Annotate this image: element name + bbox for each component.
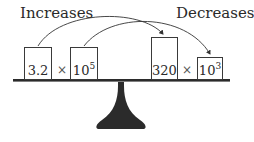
left-power-value: 105 (71, 63, 97, 77)
box-right-coefficient: 320 (151, 37, 178, 80)
right-times-sign: × (182, 63, 192, 77)
right-base: 10 (199, 63, 216, 78)
right-exponent: 3 (215, 61, 221, 71)
box-left-power: 105 (70, 47, 98, 80)
left-base: 10 (73, 63, 90, 78)
label-increases: Increases (20, 6, 93, 21)
balance-fulcrum (96, 82, 145, 129)
left-coefficient-value: 3.2 (25, 64, 51, 77)
label-decreases: Decreases (176, 6, 254, 21)
box-right-power: 103 (197, 57, 223, 80)
left-times-sign: × (57, 63, 67, 77)
right-coefficient-value: 320 (152, 64, 177, 77)
left-exponent: 5 (89, 61, 95, 71)
right-power-value: 103 (198, 63, 222, 77)
arrow-exponent-to-10-3 (84, 21, 210, 54)
box-left-coefficient: 3.2 (24, 47, 52, 80)
